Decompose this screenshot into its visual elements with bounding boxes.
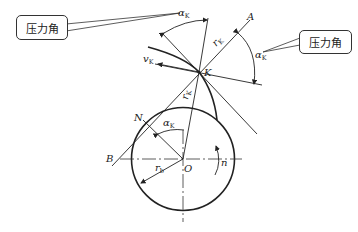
alpha-arc-top (164, 20, 207, 33)
label-o: O (184, 163, 192, 174)
label-k: K (203, 67, 212, 78)
normal-line (162, 33, 257, 134)
left-callout-pointer (66, 13, 180, 31)
alpha-arc-right (238, 33, 255, 84)
label-alpha-top: αK (178, 7, 190, 20)
radius-ok (183, 72, 199, 159)
label-rk-top: rK (210, 34, 226, 50)
label-n-rotation: n (221, 157, 227, 168)
label-rk: rK (179, 89, 194, 101)
line-of-action (112, 20, 250, 166)
label-rb: rb (155, 162, 164, 175)
right-callout-pointer (263, 38, 300, 52)
label-alpha-bottom: αK (163, 117, 175, 130)
involute-curve (148, 47, 217, 120)
radius-extension (199, 18, 208, 72)
callout-right-text: 压力角 (309, 34, 342, 50)
callout-right-pressure-angle: 压力角 (299, 30, 352, 54)
callout-left-text: 压力角 (26, 20, 59, 36)
label-a: A (246, 11, 254, 22)
point-k-dot (197, 70, 200, 73)
callout-left-pressure-angle: 压力角 (16, 15, 68, 40)
rotation-arrow (215, 146, 219, 175)
label-n: N (133, 112, 144, 123)
label-b: B (105, 153, 113, 164)
alpha-arc-bottom (158, 130, 184, 135)
label-vk: vK (143, 53, 154, 66)
